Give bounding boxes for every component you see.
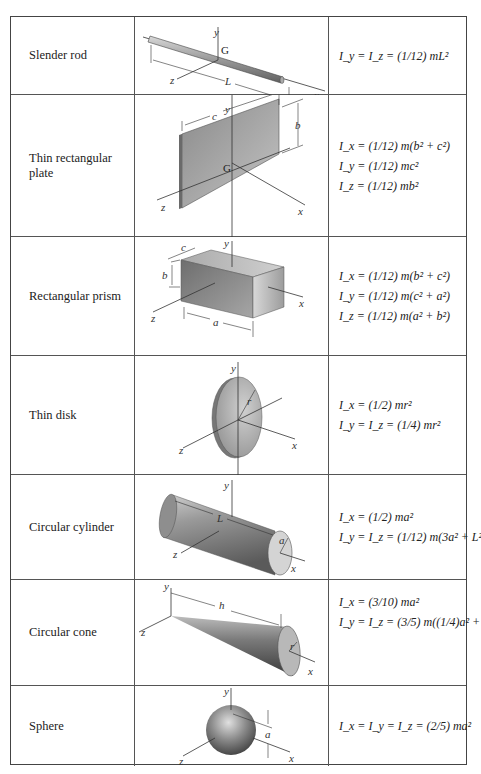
circular-cylinder-diagram: y L a z x (135, 475, 329, 580)
slender-rod-diagram: y G z L x (135, 17, 329, 95)
dimension-label-a: a (265, 728, 271, 740)
moments-of-inertia-table: Slender rod y G z (10, 16, 467, 765)
table-row-rectangular-prism: Rectangular prism (11, 237, 466, 356)
formula-line: I_y = I_z = (3/5) m((1/4)a² + h²) (339, 614, 466, 630)
dimension-label-c: c (181, 241, 186, 253)
axis-label-x: x (291, 439, 297, 451)
shape-name: Thin disk (29, 408, 77, 423)
formula-line: I_x = (1/2) mr² (339, 397, 466, 413)
shape-figure-cell: y a z x (135, 686, 329, 766)
axis-label-y: y (223, 479, 229, 491)
formula-line: I_y = I_z = (1/12) m(3a² + L²) (339, 529, 466, 545)
shape-figure-cell: y G z L x (135, 17, 329, 94)
dimension-label-a: a (213, 316, 219, 328)
axis-label-x: x (298, 297, 304, 309)
sphere-diagram: y a z x (135, 686, 329, 766)
shape-name-cell: Slender rod (11, 17, 135, 94)
formula-cell: I_x = (1/12) m(b² + c²) I_y = (1/12) m(c… (329, 237, 466, 355)
dimension-label-c: c (212, 110, 217, 122)
formula-cell: I_x = (3/10) ma² I_y = I_z = (3/5) m((1/… (329, 580, 466, 685)
table-row-thin-disk: Thin disk y r z x (11, 356, 466, 475)
axis-label-y: y (213, 26, 219, 38)
axis-label-z: z (169, 74, 175, 86)
point-label-G: G (223, 162, 231, 174)
dimension-label-a: a (279, 534, 285, 546)
axis-label-z: z (140, 626, 146, 638)
thin-disk-diagram: y r z x (135, 356, 329, 475)
axis-label-y: y (163, 580, 169, 592)
shape-name: Sphere (29, 719, 64, 734)
shape-name-cell: Circular cylinder (11, 475, 135, 579)
axis-label-x: x (297, 205, 303, 217)
formula-cell: I_x = (1/2) ma² I_y = I_z = (1/12) m(3a²… (329, 475, 466, 579)
shape-name: Slender rod (29, 48, 87, 63)
axis-label-x: x (288, 752, 294, 764)
formula-line: I_x = (1/2) ma² (339, 509, 466, 525)
formula-cell: I_x = I_y = I_z = (2/5) ma² (329, 686, 466, 766)
shape-name-cell: Rectangular prism (11, 237, 135, 355)
shape-name: Thin rectangular plate (29, 151, 134, 181)
shape-name-cell: Sphere (11, 686, 135, 766)
axis-label-y: y (230, 362, 236, 374)
formula-line: I_y = (1/12) m(c² + a²) (339, 288, 466, 304)
shape-figure-cell: y h z r x (135, 580, 329, 685)
formula-line: I_z = (1/12) mb² (339, 178, 466, 194)
formula-line: I_y = (1/12) mc² (339, 158, 466, 174)
circular-cone-diagram: y h z r x (135, 580, 329, 686)
axis-label-y: y (223, 686, 229, 697)
axis-label-z: z (178, 755, 184, 766)
table-row-slender-rod: Slender rod y G z (11, 17, 466, 95)
shape-figure-cell: c y b z a x (135, 237, 329, 355)
formula-cell: I_y = I_z = (1/12) mL² (329, 17, 466, 94)
formula-line: I_y = I_z = (1/12) mL² (339, 48, 466, 64)
formula-line: I_x = (3/10) ma² (339, 594, 466, 610)
axis-label-x: x (290, 562, 296, 574)
shape-name: Circular cone (29, 625, 97, 640)
formula-line: I_z = (1/12) m(a² + b²) (339, 308, 466, 324)
axis-label-z: z (150, 312, 156, 324)
table-row-thin-rectangular-plate: Thin rectangular plate (11, 95, 466, 237)
dimension-label-L: L (216, 512, 223, 524)
dimension-label-b: b (295, 119, 301, 131)
shape-figure-cell: y L a z x (135, 475, 329, 579)
shape-figure-cell: y r z x (135, 356, 329, 474)
dimension-label-L: L (224, 75, 231, 87)
thin-rectangular-plate-diagram: y c b G z x (135, 95, 329, 237)
axis-label-x: x (307, 665, 313, 677)
formula-cell: I_x = (1/2) mr² I_y = I_z = (1/4) mr² (329, 356, 466, 474)
axis-label-y: y (224, 103, 230, 115)
shape-name-cell: Thin rectangular plate (11, 95, 135, 236)
formula-line: I_y = I_z = (1/4) mr² (339, 417, 466, 433)
axis-label-z: z (178, 444, 184, 456)
table-row-circular-cone: Circular cone y h z (11, 580, 466, 686)
table-row-circular-cylinder: Circular cylinder y L a (11, 475, 466, 580)
axis-label-z: z (172, 548, 178, 560)
formula-line: I_x = (1/12) m(b² + c²) (339, 268, 466, 284)
axis-label-y: y (223, 237, 229, 249)
formula-cell: I_x = (1/12) m(b² + c²) I_y = (1/12) mc²… (329, 95, 466, 236)
formula-line: I_x = (1/12) m(b² + c²) (339, 138, 466, 154)
dimension-label-b: b (162, 269, 168, 281)
shape-figure-cell: y c b G z x (135, 95, 329, 236)
formula-line: I_x = I_y = I_z = (2/5) ma² (339, 718, 466, 734)
dimension-label-h: h (219, 599, 225, 611)
shape-name-cell: Circular cone (11, 580, 135, 685)
shape-name-cell: Thin disk (11, 356, 135, 474)
rectangular-prism-diagram: c y b z a x (135, 237, 329, 356)
dimension-label-r: r (290, 640, 295, 652)
shape-name: Circular cylinder (29, 520, 114, 535)
shape-name: Rectangular prism (29, 289, 121, 304)
dimension-label-r: r (247, 395, 252, 407)
axis-label-z: z (160, 201, 166, 213)
point-label-G: G (221, 44, 229, 56)
table-row-sphere: Sphere y a z x (11, 686, 466, 766)
